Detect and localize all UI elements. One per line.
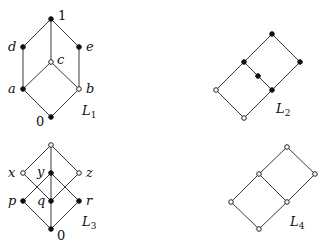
- node-1: [49, 17, 54, 22]
- node-0: [49, 227, 54, 232]
- lattice-title-L2: L2: [275, 101, 290, 118]
- node-z: [77, 171, 82, 176]
- lattice-title-L1: L1: [81, 103, 96, 120]
- label-a: a: [8, 81, 16, 96]
- label-0: 0: [57, 228, 65, 243]
- label-z: z: [85, 165, 93, 180]
- node-e: [77, 45, 82, 50]
- node-r: [77, 199, 82, 204]
- node-middle: [256, 74, 261, 79]
- node-a: [21, 87, 26, 92]
- label-0: 0: [36, 114, 44, 129]
- label-y: y: [36, 164, 45, 179]
- label-q: q: [37, 193, 45, 208]
- node-left: [214, 88, 219, 93]
- lattice-L4: L4: [229, 145, 318, 232]
- node-top: [285, 145, 290, 150]
- node-mid-right: [270, 88, 275, 93]
- label-r: r: [86, 193, 93, 208]
- label-b: b: [86, 81, 94, 96]
- lattice-title-L3: L3: [81, 214, 97, 231]
- lattice-L2: L2: [214, 32, 303, 121]
- node-mid-right: [285, 200, 290, 205]
- node-upper-left: [242, 60, 247, 65]
- node-upper-left: [257, 172, 262, 177]
- node-q: [49, 199, 54, 204]
- node-bottom: [257, 227, 262, 232]
- label-x: x: [8, 165, 16, 180]
- lattice-L3: x y z p q r 0 L3: [8, 143, 97, 243]
- label-d: d: [8, 39, 16, 54]
- node-d: [21, 45, 26, 50]
- node-p: [21, 199, 26, 204]
- label-1: 1: [58, 8, 66, 23]
- lattice-title-L4: L4: [289, 214, 305, 231]
- label-e: e: [86, 39, 94, 54]
- node-right: [313, 172, 318, 177]
- node-right: [298, 60, 303, 65]
- node-bottom: [242, 116, 247, 121]
- node-x: [21, 171, 26, 176]
- node-b: [77, 87, 82, 92]
- node-0: [49, 115, 54, 120]
- node-top: [270, 32, 275, 37]
- lattice-diagrams: 1 d e c a b 0 L1 L2: [0, 0, 324, 248]
- label-c: c: [57, 52, 65, 67]
- node-top: [49, 143, 54, 148]
- node-c: [49, 60, 54, 65]
- lattice-L1: 1 d e c a b 0 L1: [8, 8, 96, 129]
- node-y: [49, 171, 54, 176]
- label-p: p: [8, 193, 17, 208]
- node-left: [229, 200, 234, 205]
